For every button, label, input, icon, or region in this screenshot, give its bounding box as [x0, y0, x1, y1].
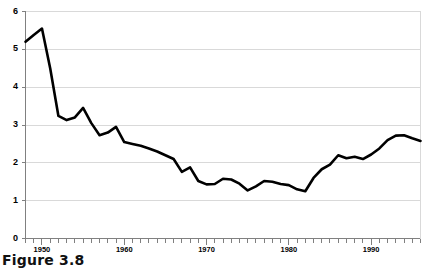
y-axis-ticks: [22, 12, 26, 239]
y-tick-label: 0: [2, 234, 18, 243]
x-tick-label: 1980: [274, 246, 304, 254]
data-series-line: [26, 29, 421, 192]
x-axis-ticks: [26, 239, 421, 245]
figure-caption: Figure 3.8: [2, 252, 84, 268]
y-tick-label: 5: [2, 44, 18, 53]
chart-plot-area: 0123456 19501960197019801990: [0, 0, 429, 248]
y-tick-label: 3: [2, 120, 18, 129]
x-tick-label: 1960: [109, 246, 139, 254]
grid-lines: [26, 12, 421, 201]
x-tick-label: 1970: [192, 246, 222, 254]
y-tick-label: 6: [2, 7, 18, 16]
x-tick-label: 1990: [356, 246, 386, 254]
y-tick-label: 4: [2, 82, 18, 91]
y-tick-label: 1: [2, 196, 18, 205]
y-tick-label: 2: [2, 158, 18, 167]
line-chart-svg: [0, 0, 429, 248]
figure-container: 0123456 19501960197019801990 Figure 3.8: [0, 0, 429, 272]
